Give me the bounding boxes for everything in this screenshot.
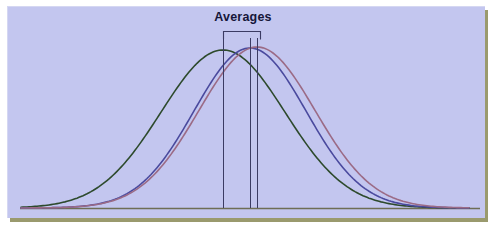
averages-label: Averages: [104, 10, 381, 24]
curve-blue-curve: [21, 48, 469, 208]
figure-root: Averages: [0, 0, 492, 226]
averages-label-text: Averages: [214, 10, 271, 24]
curve-green-curve: [21, 50, 469, 208]
curve-mauve-curve: [21, 47, 469, 208]
distribution-plot: [8, 7, 485, 218]
chart-panel: Averages: [7, 6, 485, 218]
averages-bracket: [224, 32, 261, 40]
